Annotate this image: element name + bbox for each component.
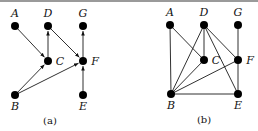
node-B <box>11 91 19 99</box>
node-label-B: B <box>10 100 19 113</box>
edge-D-E <box>204 25 238 94</box>
node-G <box>234 21 242 29</box>
node-label-C: C <box>212 54 221 67</box>
node-A <box>166 21 174 29</box>
node-B <box>167 90 175 98</box>
edge-B-F <box>15 63 79 95</box>
node-E <box>79 91 87 99</box>
node-label-G: G <box>79 7 88 20</box>
node-C <box>44 57 52 65</box>
edge-A-B <box>170 25 171 94</box>
node-label-A: A <box>10 7 19 20</box>
node-label-E: E <box>78 100 87 113</box>
node-F <box>234 56 242 64</box>
node-label-C: C <box>56 55 65 68</box>
node-label-B: B <box>166 99 175 112</box>
edge-D-F <box>204 25 238 60</box>
node-label-A: A <box>165 6 174 19</box>
panel-a-directed-graph: ADGCFBE(a) <box>10 7 99 126</box>
node-label-D: D <box>199 6 209 19</box>
panel-caption-b: (b) <box>197 114 211 125</box>
node-label-F: F <box>90 55 99 68</box>
node-label-F: F <box>245 54 254 67</box>
node-C <box>200 56 208 64</box>
graph-figure: ADGCFBE(a) ADGCFBE(b) <box>0 0 258 131</box>
node-D <box>200 21 208 29</box>
edge-A-C <box>15 26 45 57</box>
node-E <box>234 90 242 98</box>
node-F <box>79 57 87 65</box>
edge-C-B <box>171 60 204 94</box>
node-D <box>44 22 52 30</box>
edge-B-C <box>15 65 45 95</box>
edge-A-C <box>170 25 204 60</box>
edge-D-B <box>171 25 204 94</box>
node-label-E: E <box>233 99 242 112</box>
node-label-G: G <box>234 6 243 19</box>
node-label-D: D <box>43 7 53 20</box>
panel-b-undirected-graph: ADGCFBE(b) <box>165 6 254 125</box>
panel-caption-a: (a) <box>43 115 57 126</box>
node-G <box>79 22 87 30</box>
node-A <box>11 22 19 30</box>
edge-F-B <box>171 60 238 94</box>
edge-D-F <box>48 26 79 57</box>
